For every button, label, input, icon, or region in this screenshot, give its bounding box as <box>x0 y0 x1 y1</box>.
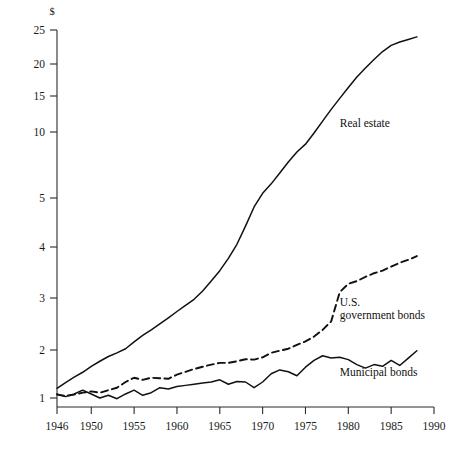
data-series-group <box>57 37 417 399</box>
x-tick-label: 1985 <box>380 420 403 432</box>
y-tick-label: 20 <box>34 58 46 70</box>
y-tick-label: 10 <box>34 126 46 138</box>
y-tick-label: 15 <box>34 90 46 102</box>
x-tick-label: 1960 <box>165 420 188 432</box>
series-label-gov-bonds-line1: U.S. <box>340 296 361 308</box>
y-tick-label: 3 <box>39 292 45 304</box>
y-tick-label: 4 <box>39 241 45 253</box>
x-tick-label: 1946 <box>46 420 69 432</box>
x-tick-label: 1950 <box>80 420 103 432</box>
series-label-gov-bonds-line2: government bonds <box>340 309 426 322</box>
y-axis-group: 1234510152025 $ <box>34 6 58 407</box>
series-label-real-estate: Real estate <box>340 117 390 129</box>
y-tick-label: 25 <box>34 24 46 36</box>
x-axis-ticks: 1946195019551960196519701975198019851990 <box>46 407 446 432</box>
series-line-real-estate <box>57 37 417 388</box>
x-tick-label: 1955 <box>123 420 146 432</box>
x-tick-label: 1975 <box>294 420 317 432</box>
chart-container: 1234510152025 $ 194619501955196019651970… <box>0 0 455 451</box>
x-tick-label: 1970 <box>251 420 274 432</box>
series-labels-group: Real estate U.S. government bonds Munici… <box>340 117 426 379</box>
y-axis-unit-label: $ <box>49 6 54 17</box>
y-axis-ticks: 1234510152025 <box>34 24 58 404</box>
x-tick-label: 1980 <box>337 420 360 432</box>
x-tick-label: 1990 <box>423 420 446 432</box>
y-tick-label: 1 <box>39 392 45 404</box>
line-chart-svg: 1234510152025 $ 194619501955196019651970… <box>0 0 455 451</box>
y-tick-label: 2 <box>39 344 45 356</box>
x-tick-label: 1965 <box>208 420 231 432</box>
y-tick-label: 5 <box>39 192 45 204</box>
x-axis-group: 1946195019551960196519701975198019851990 <box>46 407 446 432</box>
series-label-municipal-bonds: Municipal bonds <box>340 366 418 379</box>
